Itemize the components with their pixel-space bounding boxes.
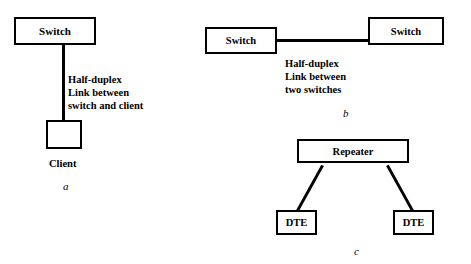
panel-b-caption: b: [343, 107, 349, 119]
switch-b-left-box: Switch: [205, 27, 277, 54]
switch-b-right-box: Switch: [368, 17, 444, 45]
link-repeater-to-dte-right: [386, 165, 415, 214]
switch-a-label: Switch: [39, 25, 71, 37]
repeater-c-box: Repeater: [297, 139, 409, 163]
panel-a-annotation: Half-duplex Link between switch and clie…: [68, 74, 143, 112]
repeater-c-label: Repeater: [333, 146, 374, 157]
link-switch-a-to-client: [62, 45, 65, 121]
switch-b-left-label: Switch: [226, 35, 256, 46]
dte-c-right-box: DTE: [393, 210, 434, 235]
dte-c-left-label: DTE: [286, 217, 308, 228]
link-switch-b-left-to-right: [277, 39, 369, 42]
client-a-caption: Client: [49, 158, 76, 171]
switch-b-right-label: Switch: [391, 26, 421, 37]
panel-a-caption: a: [63, 180, 69, 192]
diagram-canvas: Switch Half-duplex Link between switch a…: [0, 0, 471, 264]
dte-c-left-box: DTE: [276, 210, 317, 235]
client-a-box: [46, 120, 82, 149]
dte-c-right-label: DTE: [403, 217, 425, 228]
panel-b-annotation: Half-duplex Link between two switches: [285, 58, 346, 96]
panel-c-caption: c: [354, 245, 359, 257]
switch-a-box: Switch: [14, 17, 96, 45]
link-repeater-to-dte-left: [295, 165, 324, 214]
